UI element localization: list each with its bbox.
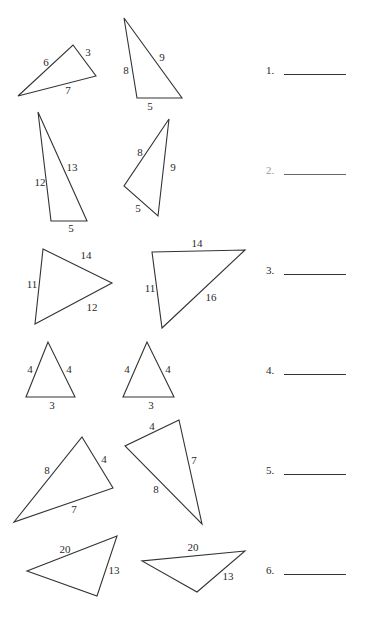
answer-blank-3[interactable]: 3. (266, 262, 346, 276)
side-length-label: 5 (68, 223, 74, 234)
problem-number: 6. (266, 565, 282, 576)
side-length-label: 8 (44, 465, 50, 476)
side-length-label: 4 (149, 421, 155, 432)
side-length-label: 5 (147, 101, 153, 112)
side-length-label: 9 (170, 162, 176, 173)
side-length-label: 16 (206, 292, 217, 303)
answer-line[interactable] (284, 174, 346, 175)
answer-blank-2[interactable]: 2. (266, 162, 346, 176)
side-length-label: 7 (65, 85, 71, 96)
side-length-label: 6 (43, 57, 49, 68)
side-length-label: 8 (123, 65, 129, 76)
side-length-label: 7 (71, 504, 77, 515)
side-length-label: 4 (124, 364, 130, 375)
triangle-1b (124, 18, 182, 98)
side-length-label: 13 (67, 162, 78, 173)
triangle-5b (125, 420, 202, 524)
side-length-label: 8 (137, 147, 143, 158)
answer-line[interactable] (284, 374, 346, 375)
answer-line[interactable] (284, 274, 346, 275)
side-length-label: 8 (153, 484, 159, 495)
side-length-label: 12 (87, 302, 98, 313)
triangle-3a (35, 249, 112, 324)
problem-number: 3. (266, 265, 282, 276)
side-length-label: 11 (27, 279, 38, 290)
answer-line[interactable] (284, 574, 346, 575)
triangle-2b (124, 119, 169, 216)
problem-number: 2. (266, 165, 282, 176)
triangle-6a (27, 536, 117, 596)
answer-blank-4[interactable]: 4. (266, 362, 346, 376)
side-length-label: 3 (148, 400, 154, 411)
side-length-label: 3 (49, 400, 55, 411)
side-length-label: 14 (81, 250, 92, 261)
side-length-label: 12 (35, 177, 46, 188)
side-length-label: 14 (192, 238, 203, 249)
triangle-figures (0, 0, 366, 618)
side-length-label: 13 (223, 571, 234, 582)
side-length-label: 4 (165, 364, 171, 375)
side-length-label: 4 (27, 364, 33, 375)
side-length-label: 9 (159, 52, 165, 63)
problem-number: 1. (266, 65, 282, 76)
triangle-2a (38, 112, 87, 221)
side-length-label: 4 (101, 454, 107, 465)
side-length-label: 4 (66, 364, 72, 375)
side-length-label: 5 (135, 203, 141, 214)
side-length-label: 20 (188, 542, 199, 553)
side-length-label: 13 (109, 565, 120, 576)
side-length-label: 20 (60, 544, 71, 555)
answer-line[interactable] (284, 74, 346, 75)
side-length-label: 11 (145, 283, 156, 294)
problem-number: 5. (266, 465, 282, 476)
answer-blank-6[interactable]: 6. (266, 562, 346, 576)
triangle-5a (14, 437, 113, 522)
answer-blank-1[interactable]: 1. (266, 62, 346, 76)
problem-number: 4. (266, 365, 282, 376)
triangle-3b (152, 250, 245, 328)
side-length-label: 3 (85, 47, 91, 58)
side-length-label: 7 (191, 455, 197, 466)
answer-blank-5[interactable]: 5. (266, 462, 346, 476)
answer-line[interactable] (284, 474, 346, 475)
